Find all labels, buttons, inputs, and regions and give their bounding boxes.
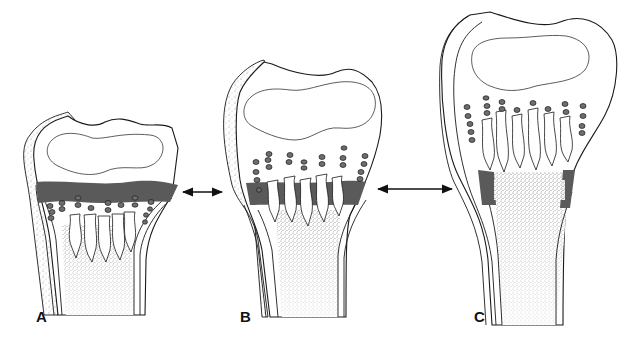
physis-band-a [36,181,178,203]
panel-label-a: A [36,308,47,325]
growth-plate-diagram [0,0,633,337]
panel-label-c: C [474,308,485,325]
panel-b [224,60,382,317]
panel-label-b: B [240,308,251,325]
panel-a [24,112,178,315]
panel-c [440,12,617,325]
